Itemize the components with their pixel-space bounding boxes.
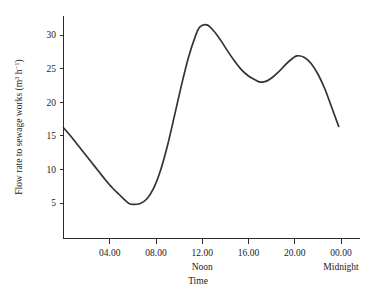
x-tick-label: 04.00 [99,248,121,258]
y-tick-label: 15 [47,131,57,141]
x-tick-label: 16.00 [238,248,260,258]
y-axis-title-suffix: ) [14,59,25,62]
x-tick-sublabel: Noon [192,262,213,272]
y-tick-label: 25 [47,64,57,74]
y-tick-label: 10 [47,165,57,175]
flow-rate-curve [64,25,339,205]
x-tick-labels: 04.0008.0012.0016.0020.0000.00 [99,248,352,258]
x-tick-label: 20.00 [284,248,306,258]
x-tick-marks [110,239,341,244]
y-axis-group: 51015202530 [47,16,64,239]
y-tick-label: 30 [47,30,57,40]
x-axis-title: Time [188,276,208,286]
y-tick-label: 20 [47,98,57,108]
y-axis-title-exponent-minus1: −1 [13,62,20,69]
y-tick-labels: 51015202530 [47,30,57,208]
x-axis-group: 04.0008.0012.0016.0020.0000.00 NoonMidni… [64,239,361,273]
flow-rate-line-chart: 51015202530 04.0008.0012.0016.0020.0000.… [0,0,382,296]
y-axis-title-group: Flow rate to sewage works (m3 h−1) [13,59,25,194]
x-tick-label: 08.00 [145,248,167,258]
x-tick-label: 00.00 [330,248,352,258]
y-axis-title-prefix: Flow rate to sewage works (m [14,79,25,194]
chart-figure: 51015202530 04.0008.0012.0016.0020.0000.… [0,0,382,296]
y-tick-marks [60,35,64,203]
y-axis-title: Flow rate to sewage works (m3 h−1) [13,59,25,194]
y-tick-label: 5 [51,198,56,208]
x-tick-sublabel: Midnight [323,262,359,272]
x-tick-label: 12.00 [192,248,214,258]
x-tick-sublabels: NoonMidnight [192,262,359,272]
